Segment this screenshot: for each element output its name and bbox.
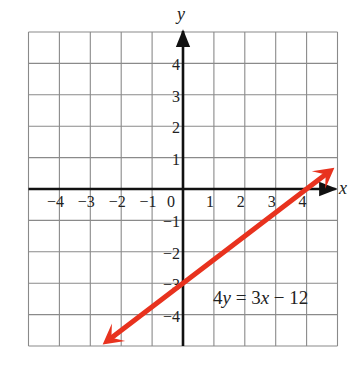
y-tick-label: 3 <box>172 88 180 105</box>
x-tick-label: −4 <box>47 193 64 210</box>
coordinate-plane: −4−3−2−1012344321−1−2−3−4 x y 4y = 3x − … <box>0 0 352 365</box>
x-axis-label: x <box>338 178 347 198</box>
y-tick-label: 1 <box>172 151 180 168</box>
y-axis-label: y <box>175 4 185 24</box>
y-tick-label: −1 <box>163 213 180 230</box>
x-tick-label: −3 <box>78 193 95 210</box>
y-tick-label: −4 <box>163 308 180 325</box>
x-tick-label: −1 <box>140 193 157 210</box>
y-tick-label: −2 <box>163 245 180 262</box>
y-tick-label: 4 <box>172 56 180 73</box>
y-tick-label: 2 <box>172 119 180 136</box>
line-series <box>103 168 335 345</box>
x-tick-label: −2 <box>109 193 126 210</box>
x-tick-label: 2 <box>237 193 245 210</box>
tick-labels: −4−3−2−1012344321−1−2−3−4 <box>47 56 307 324</box>
x-tick-label: 0 <box>167 193 175 210</box>
x-tick-label: 1 <box>206 193 214 210</box>
x-tick-label: 3 <box>268 193 276 210</box>
equation-label: 4y = 3x − 12 <box>213 287 308 308</box>
